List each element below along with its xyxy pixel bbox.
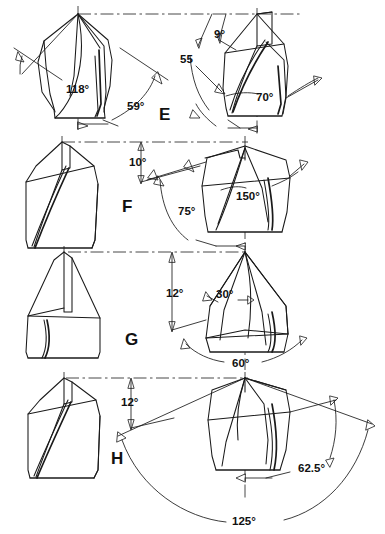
label-9-deg: 9°: [214, 28, 225, 40]
label-55: 55: [180, 53, 193, 65]
label-150-deg: 150°: [236, 190, 260, 202]
label-70-deg: 70°: [256, 91, 274, 103]
label-62-5-deg: 62.5°: [298, 462, 325, 474]
label-12-deg-h: 12°: [121, 396, 139, 408]
drill-body-outline-f2: [202, 146, 290, 232]
label-60-deg: 60°: [232, 357, 250, 369]
label-118-deg: 118°: [66, 83, 90, 95]
row-label-e: E: [159, 105, 170, 124]
drill-body-outline-h2: [208, 378, 290, 470]
label-30-deg: 30°: [216, 288, 234, 300]
label-59-deg: 59°: [127, 100, 145, 112]
row-label-f: F: [122, 197, 132, 216]
label-125-deg: 125°: [232, 515, 256, 527]
label-10-deg: 10°: [129, 156, 147, 168]
row-label-h: H: [111, 449, 123, 468]
row-label-g: G: [125, 330, 138, 349]
label-75-deg: 75°: [178, 205, 196, 217]
label-12-deg-g: 12°: [166, 287, 184, 299]
diagram-sheet: 118° 59° E: [0, 0, 385, 534]
